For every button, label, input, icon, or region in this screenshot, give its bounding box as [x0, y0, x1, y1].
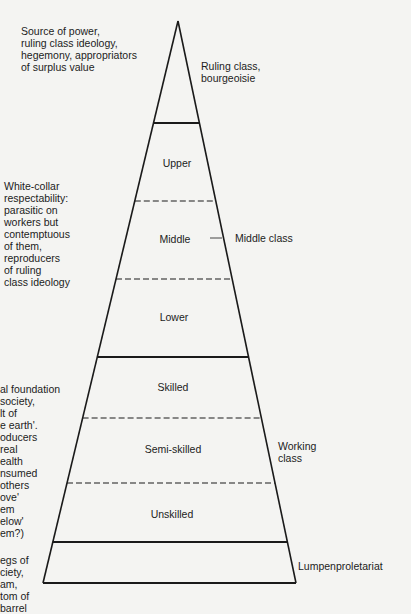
- tier-middle: Middle: [160, 233, 191, 245]
- annotation-working-class: al foundation society, lt of e earth'. o…: [0, 383, 60, 539]
- tier-unskilled: Unskilled: [151, 508, 194, 520]
- annotation-middle-class: White-collar respectability: parasitic o…: [4, 180, 70, 288]
- label-ruling-class: Ruling class, bourgeoisie: [201, 60, 261, 84]
- tier-semi-skilled: Semi-skilled: [145, 443, 202, 455]
- tier-lower: Lower: [160, 311, 189, 323]
- annotation-lumpenproletariat: egs of ciety, am, tom of barrel: [0, 554, 29, 614]
- pyramid-shape: [0, 0, 411, 614]
- label-middle-class: Middle class: [235, 232, 293, 244]
- pyramid-right-edge: [178, 21, 296, 583]
- label-working-class: Working class: [278, 440, 316, 464]
- label-lumpenproletariat: Lumpenproletariat: [298, 560, 383, 572]
- tier-skilled: Skilled: [158, 381, 189, 393]
- annotation-ruling-class: Source of power, ruling class ideology, …: [21, 25, 137, 73]
- class-pyramid-diagram: Source of power, ruling class ideology, …: [0, 0, 411, 614]
- tier-upper: Upper: [163, 157, 192, 169]
- pyramid-left-edge: [43, 21, 178, 583]
